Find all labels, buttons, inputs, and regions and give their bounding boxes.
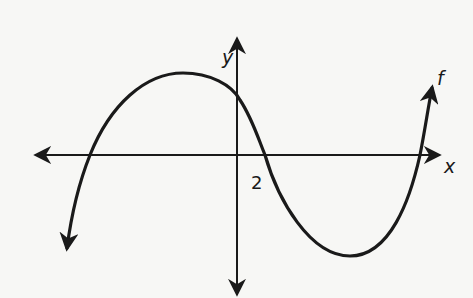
function-label: f xyxy=(437,69,444,88)
x-axis-label: x xyxy=(444,157,455,176)
function-graph: y x f 2 xyxy=(0,0,473,298)
function-curve-f xyxy=(67,73,432,256)
graph-svg xyxy=(0,0,473,298)
y-axis-label: y xyxy=(222,48,233,67)
x-intercept-label: 2 xyxy=(251,174,262,192)
